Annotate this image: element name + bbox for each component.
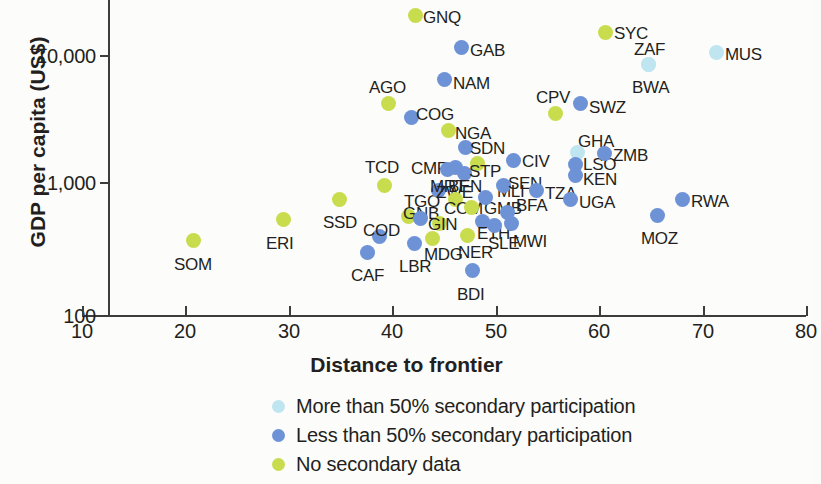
- data-point-label: CPV: [536, 88, 570, 108]
- data-point: [437, 72, 452, 87]
- legend-swatch-icon: [272, 400, 285, 413]
- legend-item-more: More than 50% secondary participation: [272, 392, 792, 421]
- data-point: [487, 218, 502, 233]
- x-axis-line: [82, 315, 806, 317]
- legend-item-none: No secondary data: [272, 450, 792, 479]
- chart-legend: More than 50% secondary participationLes…: [272, 392, 792, 479]
- legend-label: More than 50% secondary participation: [296, 395, 635, 418]
- data-point: [360, 245, 375, 260]
- x-tick-label: 80: [789, 320, 821, 343]
- data-point: [709, 45, 724, 60]
- data-point-label: BWA: [632, 78, 669, 98]
- x-axis-tick: [703, 306, 705, 316]
- data-point: [548, 106, 563, 121]
- data-point: [413, 211, 428, 226]
- x-axis-tick: [806, 306, 808, 316]
- data-point: [381, 96, 396, 111]
- data-point: [441, 123, 456, 138]
- data-point-label: UGA: [579, 193, 615, 213]
- data-point-label: KEN: [583, 170, 617, 190]
- data-point: [675, 192, 690, 207]
- x-tick-label: 40: [375, 320, 409, 343]
- data-point-label: COD: [363, 221, 400, 241]
- x-axis-tick: [496, 306, 498, 316]
- data-point-label: TCD: [365, 158, 399, 178]
- data-point: [504, 216, 519, 231]
- legend-label: Less than 50% secondary participation: [296, 424, 632, 447]
- y-axis-title: GDP per capita (US$): [26, 12, 50, 272]
- legend-swatch-icon: [272, 458, 285, 471]
- x-tick-label: 30: [272, 320, 306, 343]
- x-axis-title: Distance to frontier: [0, 353, 813, 377]
- data-point-label: MUS: [725, 45, 762, 65]
- data-point: [440, 162, 455, 177]
- scatter-plot-area: SOMERISSDCAFCODTCDAGOGNBLBRTGOCOGGNQMDGZ…: [0, 0, 813, 320]
- data-point: [478, 190, 493, 205]
- legend-item-less: Less than 50% secondary participation: [272, 421, 792, 450]
- data-point: [641, 57, 656, 72]
- data-point-label: SOM: [174, 255, 212, 275]
- data-point-label: GAB: [470, 41, 505, 61]
- y-axis-tick: [100, 55, 109, 57]
- data-point: [597, 146, 612, 161]
- data-point-label: SSD: [323, 213, 357, 233]
- x-axis-tick: [185, 306, 187, 316]
- data-point-label: ZMB: [613, 146, 648, 166]
- x-axis-tick: [82, 306, 84, 316]
- legend-label: No secondary data: [296, 453, 460, 476]
- y-axis-tick: [100, 182, 109, 184]
- data-point: [332, 192, 347, 207]
- data-point-label: AGO: [369, 78, 406, 98]
- data-point: [464, 200, 479, 215]
- y-tick-label: 1,000: [47, 172, 96, 195]
- legend-swatch-icon: [272, 429, 285, 442]
- data-point: [568, 168, 583, 183]
- data-point-label: BDI: [457, 285, 484, 305]
- data-point-label: ERI: [266, 234, 293, 254]
- data-point: [563, 192, 578, 207]
- x-tick-label: 60: [582, 320, 616, 343]
- data-point-label: GNQ: [423, 8, 461, 28]
- data-point: [407, 236, 422, 251]
- x-tick-label: 70: [686, 320, 720, 343]
- y-axis-tick: [100, 315, 109, 317]
- x-axis-tick: [392, 306, 394, 316]
- data-point: [186, 233, 201, 248]
- data-point: [506, 153, 521, 168]
- data-point: [573, 96, 588, 111]
- data-point-label: RWA: [691, 192, 729, 212]
- data-point: [377, 178, 392, 193]
- data-point: [408, 8, 423, 23]
- data-point-label: BFA: [516, 196, 547, 216]
- y-axis-line: [108, 0, 110, 316]
- x-axis-tick: [289, 306, 291, 316]
- x-tick-label: 20: [168, 320, 202, 343]
- data-point: [276, 212, 291, 227]
- data-point: [454, 40, 469, 55]
- data-point: [529, 183, 544, 198]
- data-point-label: CIV: [522, 152, 549, 172]
- data-point-label: CAF: [351, 266, 384, 286]
- data-point: [598, 25, 613, 40]
- data-point: [465, 263, 480, 278]
- data-point-label: STP: [469, 162, 501, 182]
- x-tick-label: 50: [479, 320, 513, 343]
- data-point-label: MDG: [424, 245, 463, 265]
- x-axis-tick: [599, 306, 601, 316]
- data-point-label: MWI: [513, 232, 547, 252]
- x-tick-label: 10: [65, 320, 99, 343]
- data-point-label: MOZ: [641, 229, 678, 249]
- data-point-label: NAM: [453, 74, 490, 94]
- data-point-label: COG: [416, 105, 454, 125]
- data-point-label: SWZ: [589, 98, 626, 118]
- data-point: [650, 208, 665, 223]
- data-point: [460, 228, 475, 243]
